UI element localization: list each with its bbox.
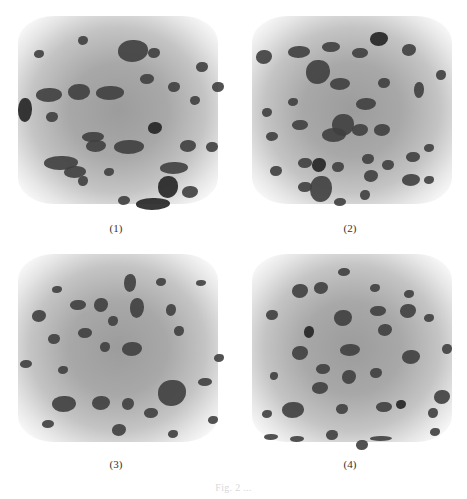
panel-label-2: (2) (330, 222, 370, 234)
panel-4: (4) (238, 246, 462, 452)
panel-label-3: (3) (96, 458, 136, 470)
panel-1: (1) (4, 8, 228, 214)
panel-2: (2) (238, 8, 462, 214)
volume-render-2 (252, 16, 452, 204)
volume-render-3 (18, 254, 218, 442)
panel-label-1: (1) (96, 222, 136, 234)
volume-render-4 (252, 254, 452, 442)
panel-label-4: (4) (330, 458, 370, 470)
volume-render-1 (18, 16, 218, 204)
panel-3: (3) (4, 246, 228, 452)
figure-caption: Fig. 2 ... (0, 482, 467, 493)
figure: (1) (0, 0, 467, 499)
